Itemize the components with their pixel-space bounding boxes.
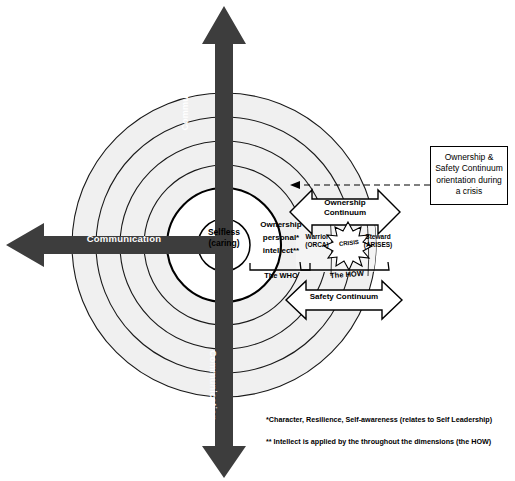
- diagram-svg: [0, 0, 515, 481]
- footnote-intellect: ** Intellect is applied by the throughou…: [266, 437, 491, 446]
- crisis-orientation-callout: Ownership & Safety Continuum orientation…: [430, 146, 508, 205]
- footnote-character-resilience: *Character, Resilience, Self-awareness (…: [266, 415, 492, 424]
- diagram-canvas: Communication Communication Communicatio…: [0, 0, 515, 481]
